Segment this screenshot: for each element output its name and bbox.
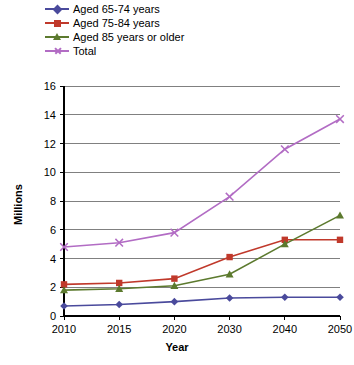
y-tick-label: 4 — [30, 253, 56, 265]
series-line-2 — [64, 215, 340, 290]
data-point — [281, 294, 289, 302]
data-point — [115, 301, 123, 309]
line-chart: Aged 65-74 yearsAged 75-84 yearsAged 85 … — [0, 0, 354, 365]
y-tick-label: 2 — [30, 281, 56, 293]
plot-area: 0246810121416201020152020203020402050 — [0, 0, 354, 365]
data-point — [337, 237, 343, 243]
series-line-3 — [64, 119, 340, 247]
y-tick-label: 12 — [30, 138, 56, 150]
x-tick-label: 2010 — [41, 323, 87, 335]
data-point — [226, 270, 234, 277]
x-tick-label: 2015 — [96, 323, 142, 335]
data-point — [60, 302, 68, 310]
data-point — [171, 275, 177, 281]
x-axis-title: Year — [0, 341, 354, 353]
x-tick-label: 2050 — [317, 323, 354, 335]
data-point — [336, 294, 344, 302]
data-point — [226, 294, 234, 302]
y-axis-title: Millions — [12, 184, 24, 225]
data-point — [226, 254, 232, 260]
y-tick-label: 6 — [30, 224, 56, 236]
x-tick-label: 2040 — [262, 323, 308, 335]
data-point — [171, 298, 179, 306]
data-point — [281, 145, 289, 153]
data-point — [336, 115, 344, 123]
y-tick-label: 8 — [30, 195, 56, 207]
data-point — [336, 211, 344, 218]
x-tick-label: 2020 — [151, 323, 197, 335]
y-tick-label: 14 — [30, 109, 56, 121]
data-point — [226, 193, 234, 201]
y-tick-label: 10 — [30, 166, 56, 178]
y-tick-label: 16 — [30, 80, 56, 92]
x-tick-label: 2030 — [207, 323, 253, 335]
series-line-0 — [64, 297, 340, 306]
y-tick-label: 0 — [30, 310, 56, 322]
series-line-1 — [64, 240, 340, 285]
